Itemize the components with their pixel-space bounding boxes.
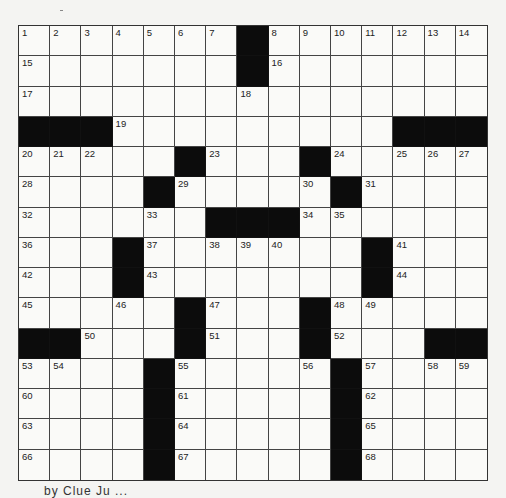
grid-cell[interactable] [81,87,112,117]
grid-cell[interactable] [269,419,300,449]
grid-cell[interactable]: 59 [456,359,487,389]
grid-cell[interactable] [393,298,424,328]
grid-cell[interactable] [206,177,237,207]
grid-cell[interactable] [113,419,144,449]
grid-cell[interactable] [113,147,144,177]
grid-cell[interactable] [425,389,456,419]
grid-cell[interactable]: 55 [175,359,206,389]
grid-cell[interactable] [393,177,424,207]
grid-cell[interactable] [144,56,175,86]
grid-cell[interactable] [300,56,331,86]
grid-cell[interactable]: 9 [300,26,331,56]
grid-cell[interactable] [206,359,237,389]
grid-cell[interactable]: 14 [456,26,487,56]
grid-cell[interactable]: 42 [19,268,50,298]
grid-cell[interactable]: 51 [206,329,237,359]
grid-cell[interactable]: 50 [81,329,112,359]
grid-cell[interactable] [456,238,487,268]
grid-cell[interactable] [206,56,237,86]
grid-cell[interactable]: 34 [300,208,331,238]
grid-cell[interactable] [300,268,331,298]
grid-cell[interactable] [300,117,331,147]
grid-cell[interactable]: 53 [19,359,50,389]
grid-cell[interactable]: 58 [425,359,456,389]
grid-cell[interactable]: 3 [81,26,112,56]
grid-cell[interactable]: 23 [206,147,237,177]
grid-cell[interactable]: 29 [175,177,206,207]
grid-cell[interactable]: 10 [331,26,362,56]
grid-cell[interactable] [425,268,456,298]
grid-cell[interactable]: 43 [144,268,175,298]
grid-cell[interactable]: 6 [175,26,206,56]
grid-cell[interactable] [269,147,300,177]
grid-cell[interactable] [331,268,362,298]
grid-cell[interactable] [206,268,237,298]
grid-cell[interactable] [237,147,268,177]
grid-cell[interactable] [50,450,81,480]
grid-cell[interactable]: 68 [362,450,393,480]
grid-cell[interactable] [144,298,175,328]
grid-cell[interactable] [456,56,487,86]
grid-cell[interactable] [393,450,424,480]
grid-cell[interactable]: 27 [456,147,487,177]
grid-cell[interactable]: 7 [206,26,237,56]
grid-cell[interactable] [393,359,424,389]
grid-cell[interactable]: 18 [237,87,268,117]
grid-cell[interactable] [175,238,206,268]
grid-cell[interactable]: 38 [206,238,237,268]
grid-cell[interactable] [456,389,487,419]
grid-cell[interactable] [237,268,268,298]
grid-cell[interactable]: 66 [19,450,50,480]
grid-cell[interactable] [456,268,487,298]
grid-cell[interactable] [362,117,393,147]
grid-cell[interactable] [144,329,175,359]
grid-cell[interactable]: 1 [19,26,50,56]
grid-cell[interactable] [300,419,331,449]
grid-cell[interactable] [456,208,487,238]
grid-cell[interactable] [300,238,331,268]
grid-cell[interactable] [362,56,393,86]
grid-cell[interactable] [50,268,81,298]
grid-cell[interactable] [50,238,81,268]
grid-cell[interactable] [393,329,424,359]
grid-cell[interactable] [81,238,112,268]
grid-cell[interactable] [393,56,424,86]
grid-cell[interactable] [456,450,487,480]
grid-cell[interactable] [81,208,112,238]
grid-cell[interactable] [113,389,144,419]
grid-cell[interactable] [425,450,456,480]
grid-cell[interactable]: 28 [19,177,50,207]
grid-cell[interactable] [269,177,300,207]
grid-cell[interactable]: 54 [50,359,81,389]
grid-cell[interactable] [269,268,300,298]
grid-cell[interactable] [206,389,237,419]
grid-cell[interactable]: 20 [19,147,50,177]
grid-cell[interactable]: 47 [206,298,237,328]
grid-cell[interactable] [50,87,81,117]
grid-cell[interactable]: 11 [362,26,393,56]
grid-cell[interactable] [237,389,268,419]
grid-cell[interactable]: 16 [269,56,300,86]
grid-cell[interactable] [237,329,268,359]
grid-cell[interactable] [50,298,81,328]
grid-cell[interactable] [425,177,456,207]
grid-cell[interactable] [237,419,268,449]
grid-cell[interactable]: 17 [19,87,50,117]
grid-cell[interactable]: 32 [19,208,50,238]
grid-cell[interactable] [393,208,424,238]
grid-cell[interactable]: 45 [19,298,50,328]
grid-cell[interactable]: 65 [362,419,393,449]
grid-cell[interactable] [237,177,268,207]
grid-cell[interactable] [362,147,393,177]
grid-cell[interactable] [269,87,300,117]
grid-cell[interactable] [425,298,456,328]
grid-cell[interactable]: 31 [362,177,393,207]
grid-cell[interactable] [144,87,175,117]
grid-cell[interactable]: 41 [393,238,424,268]
grid-cell[interactable] [144,117,175,147]
grid-cell[interactable] [81,450,112,480]
grid-cell[interactable] [206,450,237,480]
grid-cell[interactable] [237,359,268,389]
grid-cell[interactable] [175,87,206,117]
grid-cell[interactable]: 57 [362,359,393,389]
